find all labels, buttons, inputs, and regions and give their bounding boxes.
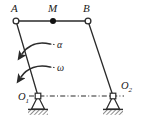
- link-rocker-b-o2: [88, 21, 113, 96]
- kinematic-diagram-canvas: α ω A M B O 1: [0, 0, 163, 122]
- alpha-label: α: [57, 39, 63, 50]
- joint-a: [13, 18, 19, 24]
- alpha-arrow: [22, 43, 55, 54]
- kinematic-diagram-figure: α ω A M B O 1: [0, 0, 163, 122]
- omega-arrow: [21, 66, 55, 77]
- joint-b: [85, 18, 91, 24]
- pin-box-o2: [110, 93, 116, 99]
- link-crank-a-o1: [16, 21, 38, 96]
- point-m-label: M: [47, 2, 58, 14]
- pivot-o2-subscript: 2: [129, 86, 133, 94]
- point-b-label: B: [83, 2, 90, 14]
- linkage-bars: [16, 21, 113, 96]
- joint-m: [50, 18, 56, 24]
- pin-box-o1: [35, 93, 41, 99]
- pivot-o1-subscript: 1: [26, 97, 30, 105]
- omega-label: ω: [57, 62, 64, 73]
- point-a-label: A: [10, 2, 18, 14]
- pivot-o1-label-group: O 1: [18, 91, 29, 105]
- pivot-o2-label-group: O 2: [121, 80, 133, 94]
